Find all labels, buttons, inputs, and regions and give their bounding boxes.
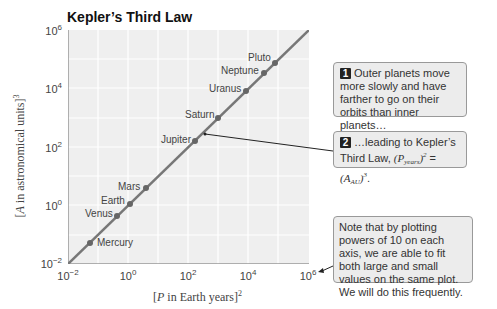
step-badge-2: 2	[340, 137, 351, 148]
callout-log-scale-note: Note that by plotting powers of 10 on ea…	[333, 216, 473, 283]
callout-outer-planets: 1Outer planets move more slowly and have…	[333, 62, 467, 117]
callout-keplers-law: 2…leading to Kepler’s Third Law, (Pyears…	[333, 131, 467, 168]
step-badge-1: 1	[340, 68, 351, 79]
